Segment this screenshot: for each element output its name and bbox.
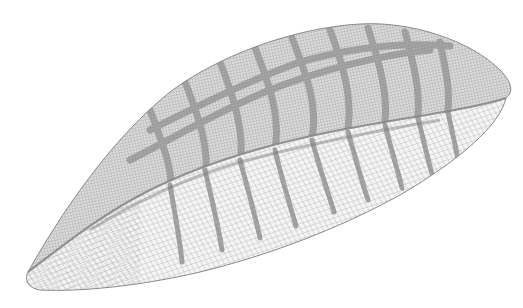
hull-mesh-render [0,0,523,308]
mesh-figure [0,0,523,308]
